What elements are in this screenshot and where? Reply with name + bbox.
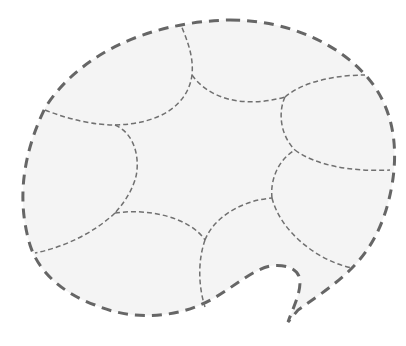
bubble-svg [0,0,406,346]
bubble-outline [23,20,395,322]
speech-bubble-diagram [0,0,406,346]
